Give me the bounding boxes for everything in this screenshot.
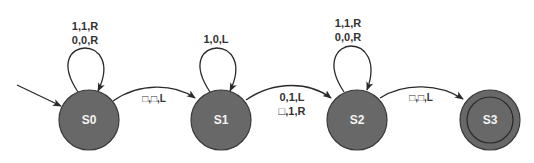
transition-label: □,□,L: [142, 93, 166, 104]
state-label: S2: [350, 113, 365, 127]
state-s3-accepting[interactable]: S3: [460, 90, 520, 150]
state-label: S0: [82, 113, 97, 127]
state-diagram: 1,1,R 0,0,R □,□,L 1,0,L 0,1,L □,1,R 1,1,…: [0, 0, 534, 163]
transition-s2-s3: □,□,L: [380, 87, 463, 103]
state-s1[interactable]: S1: [191, 90, 251, 150]
transition-label: □,1,R: [279, 105, 306, 117]
transition-s2-loop: 1,1,R 0,0,R: [334, 17, 371, 92]
self-loop-arrow: [334, 46, 371, 92]
self-loop-arrow: [200, 48, 236, 92]
initial-state-arrow: [17, 85, 61, 106]
transition-label: 1,1,R: [335, 17, 361, 29]
state-s2[interactable]: S2: [327, 90, 387, 150]
state-label: S3: [483, 113, 498, 127]
state-label: S1: [214, 113, 229, 127]
transition-label: 0,0,R: [72, 34, 98, 46]
transition-s0-s1: □,□,L: [113, 87, 195, 104]
transition-s1-s2: 0,1,L □,1,R: [246, 86, 331, 118]
transition-label: 1,1,R: [72, 20, 98, 32]
transition-s1-loop: 1,0,L: [200, 33, 236, 92]
transition-label: 0,1,L: [279, 91, 304, 103]
transition-label: 1,0,L: [203, 33, 228, 45]
transition-s0-loop: 1,1,R 0,0,R: [68, 20, 104, 92]
transition-label: □,□,L: [409, 92, 433, 103]
transition-label: 0,0,R: [335, 31, 361, 43]
self-loop-arrow: [68, 48, 104, 92]
state-s0[interactable]: S0: [59, 90, 119, 150]
